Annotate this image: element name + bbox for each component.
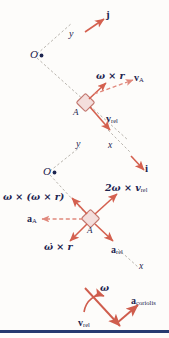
axis-y-bot <box>50 147 80 171</box>
arrow-a-coriolis <box>117 305 138 323</box>
label-two-omega-cross-v-rel: 2ω × vrel <box>105 183 147 194</box>
arrow-omega-curved <box>84 295 104 312</box>
label-block-A-bot: A <box>87 226 93 235</box>
label-axis-y-top: y <box>69 29 73 39</box>
label-omega-cross-omega-cross-r: ω × (ω × r) <box>3 192 64 202</box>
label-a-coriolis: acoriolis <box>131 296 156 307</box>
label-v-A-sub: A <box>139 76 144 83</box>
arrow-a-rel <box>95 224 113 241</box>
label-v-rel-top: vrel <box>106 114 118 125</box>
label-origin-top: O <box>30 49 38 60</box>
physics-figure: O y j A ω × r vA vrel O y x i A x ω × (ω… <box>0 0 169 338</box>
arrow-omega-dot-cross-r <box>70 224 87 241</box>
label-unit-vector-j: j <box>106 9 110 20</box>
label-two-omega-cross-v-rel-main: 2ω × v <box>105 182 141 193</box>
label-v-A: vA <box>134 73 144 84</box>
axis-y-top <box>37 23 72 54</box>
arrow-omega-cross-omega-cross-r <box>72 198 87 214</box>
label-omega-cross-r: ω × r <box>96 71 125 81</box>
arrow-j <box>85 19 104 32</box>
arrow-i <box>131 156 144 170</box>
label-a-rel: arel <box>111 245 123 256</box>
label-a-rel-sub: rel <box>116 248 123 255</box>
origin-dot-bot <box>53 171 57 175</box>
figure-svg <box>0 0 169 338</box>
label-unit-vector-i: i <box>145 163 148 174</box>
label-axis-x-bot-upper: x <box>108 141 112 151</box>
label-a-A: aA <box>27 214 37 225</box>
arrow-v-A <box>94 80 133 94</box>
label-omega-coriolis: ω <box>100 283 109 293</box>
label-omega-dot-cross-r: ω̇ × r <box>44 242 73 252</box>
label-block-A-top: A <box>73 108 79 117</box>
label-origin-bot: O <box>43 166 51 177</box>
arrow-two-omega-cross-v-rel <box>95 194 117 214</box>
label-v-rel-coriolis-sub: rel <box>83 321 90 328</box>
label-axis-x-bot-lower: x <box>139 262 143 272</box>
origin-dot-top <box>40 54 44 58</box>
label-axis-y-bot: y <box>76 139 80 149</box>
label-a-coriolis-sub: coriolis <box>136 299 156 306</box>
label-two-omega-cross-v-rel-sub: rel <box>141 186 148 193</box>
bottom-rule <box>0 330 169 333</box>
axis-r-top <box>37 58 85 101</box>
arrow-v-rel-coriolis <box>85 288 120 326</box>
label-v-rel-coriolis: vrel <box>78 318 90 329</box>
label-a-A-sub: A <box>32 217 37 224</box>
label-v-rel-top-sub: rel <box>111 117 118 124</box>
